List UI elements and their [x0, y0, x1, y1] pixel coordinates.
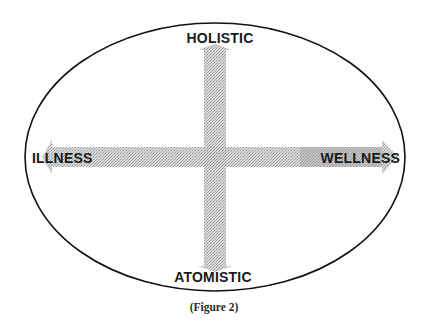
axis-label-bottom: ATOMISTIC — [174, 269, 252, 285]
axis-label-top: HOLISTIC — [187, 30, 254, 46]
axis-label-left: ILLNESS — [32, 150, 93, 166]
figure-caption: (Figure 2) — [190, 301, 239, 314]
health-continuum-diagram: HOLISTIC ILLNESS WELLNESS ATOMISTIC (Fig… — [0, 0, 424, 330]
axis-label-right: WELLNESS — [321, 150, 400, 166]
